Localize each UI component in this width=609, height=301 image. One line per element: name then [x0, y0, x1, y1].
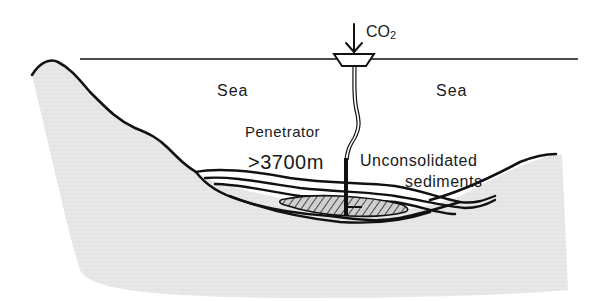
depth-label: >3700m	[248, 152, 324, 172]
co2-label-subscript: 2	[390, 29, 396, 41]
co2-input-arrow	[346, 24, 362, 52]
sediments-label-line2: sediments	[405, 174, 482, 190]
injection-vessel	[334, 54, 374, 66]
sea-label-left: Sea	[217, 83, 248, 99]
pipe	[345, 66, 360, 160]
co2-label-main: CO	[366, 23, 390, 40]
penetrator-label: Penetrator	[245, 124, 320, 139]
sea-label-right: Sea	[436, 83, 467, 99]
sediments-label-line1: Unconsolidated	[360, 153, 477, 169]
co2-label: CO2	[366, 24, 396, 41]
